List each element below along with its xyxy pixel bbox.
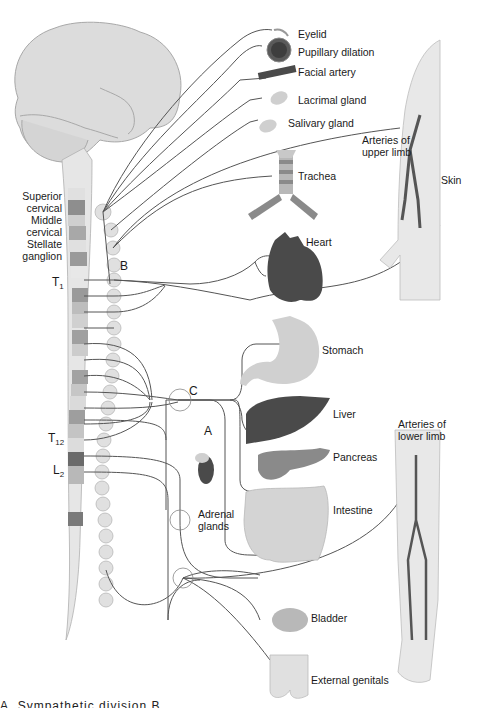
marker-a: A	[204, 425, 212, 437]
label-t12: T12	[48, 432, 64, 449]
label-adrenal-glands: Adrenalglands	[198, 508, 234, 532]
marker-b: B	[120, 260, 128, 272]
figure-caption-cutoff: A. Sympathetic division B. ...	[0, 699, 483, 708]
marker-c: C	[189, 385, 198, 397]
label-pupillary-dilation: Pupillary dilation	[298, 46, 374, 58]
pancreas-shape	[258, 448, 330, 480]
label-facial-artery: Facial artery	[298, 66, 356, 78]
eye	[267, 29, 291, 62]
label-external-genitals: External genitals	[311, 674, 389, 686]
genitals-shape	[270, 655, 308, 698]
intestine-shape	[244, 486, 328, 562]
spinal-cord	[62, 148, 92, 640]
label-t1: T1	[52, 276, 64, 293]
trachea-shape	[248, 150, 318, 220]
label-stellate-ganglion: Stellateganglion	[6, 238, 62, 262]
label-intestine: Intestine	[333, 504, 373, 516]
label-lacrimal-gland: Lacrimal gland	[298, 94, 366, 106]
label-middle-cervical: Middlecervical	[6, 214, 62, 238]
stomach-shape	[240, 316, 319, 386]
label-trachea: Trachea	[298, 170, 336, 182]
label-l2: L2	[53, 464, 64, 481]
label-arteries-lower-limb: Arteries oflower limb	[398, 418, 446, 442]
diagram-svg	[0, 0, 483, 708]
leg	[395, 430, 440, 682]
brain	[15, 22, 181, 162]
label-superior-cervical: Superiorcervical	[6, 190, 62, 214]
liver-shape	[246, 396, 330, 444]
label-heart: Heart	[306, 236, 332, 248]
label-skin: Skin	[441, 174, 461, 186]
bladder-shape	[272, 608, 308, 632]
label-bladder: Bladder	[311, 612, 347, 624]
label-arteries-upper-limb: Arteries ofupper limb	[362, 134, 411, 158]
facial-artery-shape	[258, 65, 297, 80]
diagram-canvas: Superiorcervical Middlecervical Stellate…	[0, 0, 483, 708]
label-liver: Liver	[333, 408, 356, 420]
label-salivary-gland: Salivary gland	[288, 117, 354, 129]
label-eyelid: Eyelid	[298, 28, 327, 40]
arm	[380, 40, 440, 300]
label-pancreas: Pancreas	[333, 451, 377, 463]
label-stomach: Stomach	[322, 344, 363, 356]
